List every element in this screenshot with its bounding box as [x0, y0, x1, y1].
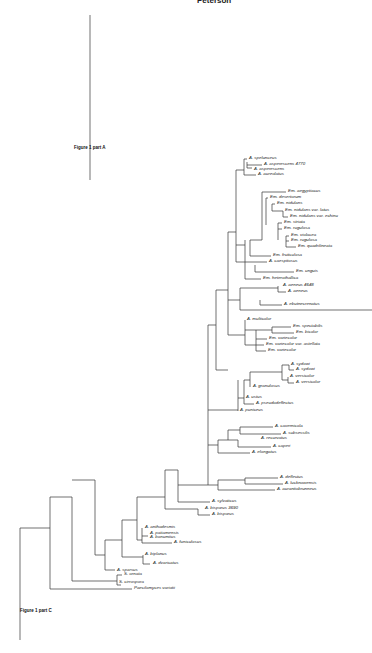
- taxon-label: A. ebutnecrenatus: [284, 302, 320, 306]
- taxon-label: Em. aegyptiacus: [288, 189, 320, 193]
- taxon-label: A. dvaricatus: [153, 561, 178, 565]
- taxon-label: Em. fruticulosa: [273, 253, 302, 257]
- taxon-label: A. aeneus 4648: [283, 283, 314, 287]
- taxon-label: Em. unguis: [296, 269, 318, 273]
- taxon-label: A. granulosus: [253, 384, 280, 388]
- taxon-label: A. lucknowensis: [285, 481, 316, 485]
- taxon-label: A. caespitosus: [269, 259, 298, 263]
- taxon-label: A. bonumiius: [150, 535, 175, 539]
- taxon-label: A. sydowi: [296, 367, 315, 371]
- taxon-label: A. caperi: [273, 444, 290, 448]
- taxon-label: Em. nidulans: [277, 201, 302, 205]
- taxon-label: A. recurvatus: [261, 436, 287, 440]
- taxon-label: Em. spectabilis: [293, 324, 323, 328]
- taxon-label: Em. variecolor: [268, 348, 296, 352]
- taxon-label: Em. heterothallica: [263, 276, 298, 280]
- taxon-label: A. sylvaticus: [212, 499, 236, 503]
- taxon-label: A. aureolatus: [258, 172, 284, 176]
- taxon-label: A. funiculosus: [174, 540, 201, 544]
- taxon-label: A. bisporus: [212, 512, 234, 516]
- taxon-label: Em. variecolor var. astellata: [266, 342, 320, 346]
- taxon-label: Em. variecolor: [269, 336, 297, 340]
- taxon-label: A. spelunceus: [249, 156, 277, 160]
- taxon-label: Em. desertorum: [270, 195, 301, 199]
- taxon-label: A. puniceus: [240, 408, 263, 412]
- taxon-label: Em. nidulans var. echinu: [290, 214, 338, 218]
- taxon-label: A. elongatus: [252, 450, 276, 454]
- taxon-label: Em. nidulans var. latus: [285, 208, 329, 212]
- taxon-label: A. multicolor: [247, 317, 271, 321]
- taxon-label: A. ustus: [246, 395, 262, 399]
- taxon-label: Em. rugulosa: [284, 226, 310, 230]
- taxon-label: S. ornata: [124, 572, 142, 576]
- taxon-label: A. cavernicola: [275, 424, 303, 428]
- taxon-label: A. versicolor: [296, 380, 320, 384]
- taxon-label: A. aurantiobrunneus: [277, 487, 317, 491]
- taxon-label: Em. rugulosa: [291, 238, 317, 242]
- taxon-label: Em. striata: [284, 220, 305, 224]
- taxon-label: A. aeneus: [288, 289, 308, 293]
- taxon-label: A. biplanus: [145, 552, 167, 556]
- taxon-label: A. bisporus 3690: [205, 506, 238, 510]
- taxon-label: A. anthodesmis: [145, 525, 175, 529]
- figure-label-part-a: Figure 1 part A: [74, 145, 106, 150]
- taxon-label: S. cirrospora: [119, 580, 144, 584]
- figure-label-part-c: Figure 1 part C: [20, 608, 52, 613]
- taxon-label: A. pseudodeflectus: [256, 401, 293, 405]
- taxon-label: Em. quadrilineata: [298, 244, 332, 248]
- taxon-label: A. deflectus: [280, 475, 303, 479]
- taxon-label: A. versicolor: [290, 374, 314, 378]
- taxon-label: Paecilomyces variotii: [134, 586, 175, 590]
- taxon-label: Em. bicolor: [296, 330, 318, 334]
